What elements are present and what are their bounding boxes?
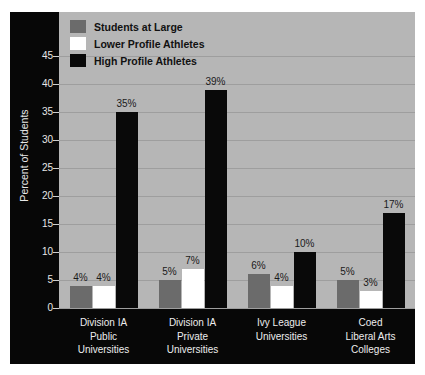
- y-axis-tick-label: 15: [27, 219, 53, 229]
- legend-label: Lower Profile Athletes: [94, 38, 204, 50]
- gridline: [59, 308, 415, 309]
- y-axis-tick-label: 5: [27, 275, 53, 285]
- bar-value-label: 4%: [86, 273, 122, 283]
- bar: [159, 280, 181, 308]
- gridline: [59, 224, 415, 225]
- bar-value-label: 10%: [287, 239, 323, 249]
- gridline: [59, 196, 415, 197]
- bar-value-label: 4%: [264, 273, 300, 283]
- y-axis-tick-label: 10: [27, 247, 53, 257]
- bar-value-label: 35%: [109, 99, 145, 109]
- bar: [93, 286, 115, 308]
- gridline: [59, 252, 415, 253]
- gridline: [59, 112, 415, 113]
- legend: Students at LargeLower Profile AthletesH…: [70, 18, 204, 69]
- legend-label: Students at Large: [94, 21, 183, 33]
- y-axis-tick-label: 30: [27, 135, 53, 145]
- gridline: [59, 140, 415, 141]
- y-axis-tick-label: 40: [27, 79, 53, 89]
- bar-value-label: 7%: [175, 256, 211, 266]
- bar: [70, 286, 92, 308]
- x-axis-category-label: Coed Liberal Arts Colleges: [316, 316, 425, 357]
- y-axis-tick-label: 35: [27, 107, 53, 117]
- bar-value-label: 17%: [376, 200, 412, 210]
- bar: [383, 213, 405, 308]
- y-axis-tick-label: 20: [27, 191, 53, 201]
- legend-item[interactable]: High Profile Athletes: [70, 52, 204, 69]
- y-axis-tick-label: 45: [27, 51, 53, 61]
- bar-value-label: 6%: [241, 261, 277, 271]
- bar-value-label: 5%: [330, 267, 366, 277]
- bar: [271, 286, 293, 308]
- bar-value-label: 39%: [198, 77, 234, 87]
- legend-label: High Profile Athletes: [94, 55, 197, 67]
- gridline: [59, 168, 415, 169]
- legend-item[interactable]: Students at Large: [70, 18, 204, 35]
- bar-chart: Percent of Students 051015202530354045 4…: [0, 0, 425, 375]
- legend-swatch-icon: [70, 37, 86, 50]
- bar-value-label: 5%: [152, 267, 188, 277]
- bar: [360, 291, 382, 308]
- y-axis-tick-label: 25: [27, 163, 53, 173]
- legend-swatch-icon: [70, 54, 86, 67]
- gridline: [59, 84, 415, 85]
- legend-item[interactable]: Lower Profile Athletes: [70, 35, 204, 52]
- bar-value-label: 3%: [353, 278, 389, 288]
- legend-swatch-icon: [70, 20, 86, 33]
- y-axis-tick-label: 0: [27, 303, 53, 313]
- bar: [205, 90, 227, 308]
